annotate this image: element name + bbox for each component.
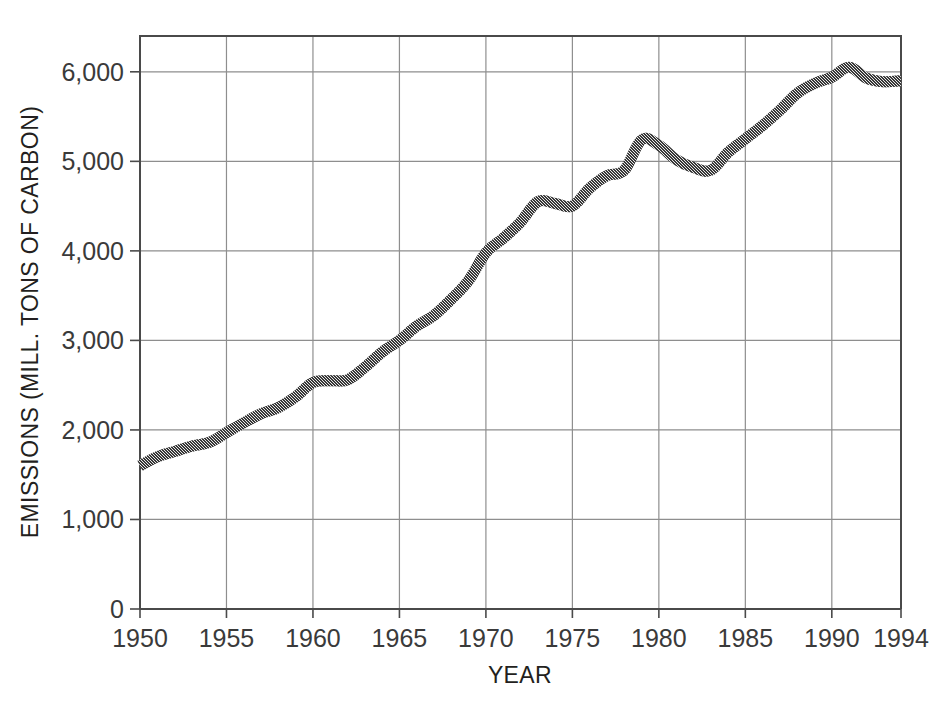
- x-axis-tick-label: 1960: [285, 624, 341, 652]
- x-axis-tick-label: 1965: [372, 624, 428, 652]
- x-axis-title: YEAR: [488, 662, 552, 688]
- x-axis-tick-label: 1970: [458, 624, 514, 652]
- y-axis-tick-label: 5,000: [61, 147, 124, 175]
- y-axis-title: EMISSIONS (MILL. TONS OF CARBON): [17, 106, 43, 538]
- x-axis-tick-label: 1950: [112, 624, 168, 652]
- x-axis-tick-label: 1975: [545, 624, 601, 652]
- x-axis-tick-label: 1980: [631, 624, 687, 652]
- y-axis-tick-label: 2,000: [61, 416, 124, 444]
- emissions-line-chart: 01,0002,0003,0004,0005,0006,000 19501955…: [0, 0, 940, 718]
- emissions-series-line-texture: [0, 0, 940, 718]
- x-axis-tick-label: 1990: [804, 624, 860, 652]
- x-axis-tick-label: 1985: [718, 624, 774, 652]
- chart-figure: 01,0002,0003,0004,0005,0006,000 19501955…: [0, 0, 940, 718]
- x-axis-tick-label: 1955: [199, 624, 255, 652]
- y-axis-tick-label: 6,000: [61, 58, 124, 86]
- y-axis-tick-label: 1,000: [61, 505, 124, 533]
- y-axis-tick-label: 0: [110, 595, 124, 623]
- y-axis-tick-label: 4,000: [61, 237, 124, 265]
- data-series: [0, 0, 940, 718]
- x-axis-tick-label: 1994: [873, 624, 929, 652]
- y-axis-tick-label: 3,000: [61, 326, 124, 354]
